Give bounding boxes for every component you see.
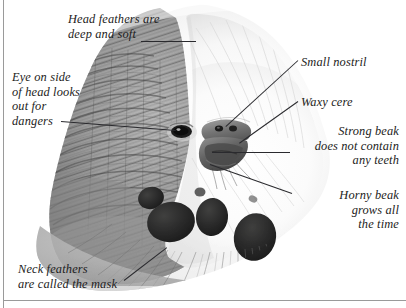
annotation-line: are called the mask — [18, 277, 153, 292]
annotation-head-feathers: Head feathers aredeep and soft — [68, 12, 198, 41]
annotation-line: out for — [12, 99, 108, 114]
leader-strong-beak — [212, 152, 290, 153]
annotation-line: does not contain — [281, 139, 399, 154]
figure-canvas: Head feathers aredeep and softEye on sid… — [0, 0, 406, 308]
annotation-line: Horny beak — [281, 188, 399, 203]
annotation-line: Small nostril — [301, 55, 401, 70]
annotation-strong-beak: Strong beakdoes not containany teeth — [281, 124, 399, 168]
annotation-neck-feathers: Neck feathersare called the mask — [18, 262, 153, 291]
annotation-line: Neck feathers — [18, 262, 153, 277]
annotation-line: the time — [281, 217, 399, 232]
eye-region — [167, 123, 197, 142]
annotation-line: Eye on side — [12, 70, 108, 85]
annotation-line: dangers — [12, 114, 108, 129]
page-rule-left — [3, 0, 4, 308]
annotation-line: Strong beak — [281, 124, 399, 139]
annotation-line: any teeth — [281, 153, 399, 168]
page-rule-bottom — [3, 300, 406, 301]
annotation-line: deep and soft — [68, 27, 198, 42]
annotation-line: Waxy cere — [301, 95, 401, 110]
annotation-eye-on-side: Eye on sideof head looksout fordangers — [12, 70, 108, 128]
annotation-horny-beak: Horny beakgrows allthe time — [281, 188, 399, 232]
annotation-small-nostril: Small nostril — [301, 55, 401, 70]
annotation-waxy-cere: Waxy cere — [301, 95, 401, 110]
annotation-line: of head looks — [12, 85, 108, 100]
annotation-line: Head feathers are — [68, 12, 198, 27]
annotation-line: grows all — [281, 203, 399, 218]
